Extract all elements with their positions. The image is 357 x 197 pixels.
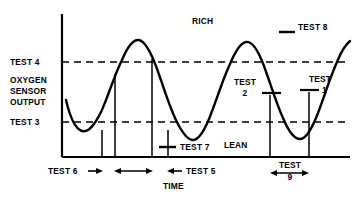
threshold-label-test-4: TEST 4 bbox=[10, 57, 40, 67]
threshold-label-test-3: TEST 3 bbox=[10, 117, 40, 127]
interval-label-test-6: TEST 6 bbox=[48, 166, 78, 176]
interval-arrow-test-6-head bbox=[96, 168, 103, 174]
x-axis-label: TIME bbox=[163, 181, 184, 191]
y-axis-label-line-3: OUTPUT bbox=[10, 97, 46, 108]
oxygen-sensor-waveform-figure: TEST 4 TEST 3 OXYGEN SENSOR OUTPUT RICH … bbox=[0, 0, 357, 197]
y-axis-label-line-2: SENSOR bbox=[10, 86, 47, 97]
marker-label-test-1-line-2: 1 bbox=[322, 85, 327, 95]
marker-label-test-2-line-2: 2 bbox=[228, 88, 262, 98]
zone-label-lean: LEAN bbox=[224, 140, 248, 150]
y-axis-label-line-1: OXYGEN bbox=[10, 75, 47, 86]
interval-arrow-unlabeled-head-left bbox=[114, 168, 121, 174]
zone-label-rich: RICH bbox=[192, 16, 213, 26]
interval-arrow-unlabeled-head-right bbox=[146, 168, 153, 174]
interval-label-test-9-line-2: 9 bbox=[273, 172, 307, 182]
marker-label-test-7: TEST 7 bbox=[180, 142, 210, 152]
marker-label-test-8: TEST 8 bbox=[298, 22, 328, 32]
interval-label-test-9-line-1: TEST bbox=[273, 160, 307, 170]
interval-label-test-5: TEST 5 bbox=[186, 166, 216, 176]
interval-arrow-test-5-head bbox=[167, 168, 174, 174]
marker-label-test-1-line-1: TEST bbox=[303, 74, 337, 84]
marker-label-test-2-line-1: TEST bbox=[228, 77, 262, 87]
